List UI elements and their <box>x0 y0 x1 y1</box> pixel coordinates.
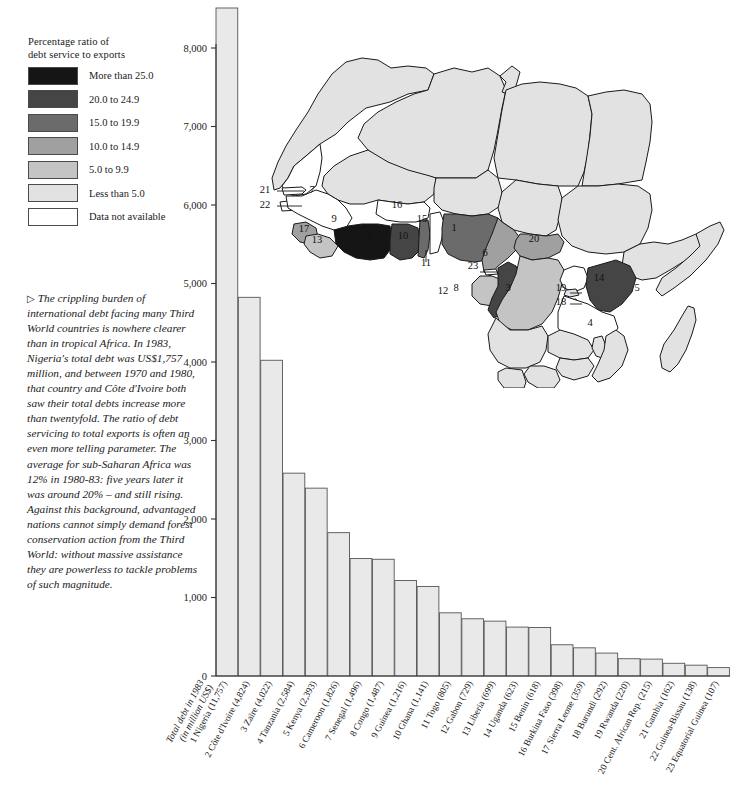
map-country-number: 4 <box>587 317 593 328</box>
y-axis-title-group: Total debt in 1983(in million US$) <box>163 678 216 750</box>
chart-bar <box>529 627 551 676</box>
x-tick-label: 16 Burkina Faso (398) <box>516 679 565 758</box>
map-country-number: 22 <box>260 199 271 210</box>
legend-item-label: 10.0 to 14.9 <box>89 141 139 152</box>
chart-bar <box>372 559 394 676</box>
x-tick-label: 9 Guinea (1,216) <box>369 679 408 740</box>
legend-swatch <box>28 90 78 108</box>
legend-swatch <box>28 161 78 179</box>
legend-item: 20.0 to 24.9 <box>28 90 203 108</box>
x-tick-label: 10 Ghana (1,141) <box>391 679 431 742</box>
map-country-number: 1 <box>451 222 456 233</box>
chart-bar <box>685 665 707 676</box>
x-tick-label: 2 Côte d'Ivoire (4,824) <box>203 679 253 759</box>
chart-bar <box>305 488 327 676</box>
map-legend: Percentage ratio of debt service to expo… <box>28 36 203 226</box>
africa-map: 1234567891011121314151617181920212223 <box>258 38 737 388</box>
map-country-number: 5 <box>634 282 639 293</box>
chart-bar <box>663 663 685 676</box>
legend-swatch <box>28 114 78 132</box>
chart-bar <box>462 619 484 676</box>
map-country-number: 20 <box>529 233 540 244</box>
x-tick-label: 14 Uganda (623) <box>481 679 520 740</box>
chart-bar <box>551 645 573 676</box>
x-tick-label: 4 Tanzania (2,584) <box>254 679 296 746</box>
map-country-number: 7 <box>309 184 314 195</box>
chart-bar <box>328 533 350 676</box>
chart-bar <box>641 659 663 676</box>
caption-text: ▷ The crippling burden of international … <box>27 291 203 592</box>
legend-item-label: Less than 5.0 <box>89 188 145 199</box>
country-cote-divoire <box>334 224 392 260</box>
legend-item-label: 20.0 to 24.9 <box>89 94 139 105</box>
x-tick-label: 23 Equatorial Guinea (107) <box>664 679 722 774</box>
legend-item-label: More than 25.0 <box>89 70 153 81</box>
country-kenya <box>586 260 636 312</box>
map-country-number: 6 <box>482 247 487 258</box>
legend-item: Less than 5.0 <box>28 184 203 202</box>
map-country-number: 23 <box>468 260 479 271</box>
x-tick-label: 5 Kenya (2,393) <box>281 679 319 738</box>
chart-bar <box>395 581 417 676</box>
atlas-page: Percentage ratio of debt service to expo… <box>0 0 737 808</box>
y-tick-label: 1,000 <box>183 592 207 603</box>
legend-rows: More than 25.020.0 to 24.915.0 to 19.910… <box>28 67 203 226</box>
chart-bar <box>484 621 506 676</box>
map-country-number: 13 <box>312 234 323 245</box>
map-country-number: 16 <box>392 199 403 210</box>
legend-title-line2: debt service to exports <box>28 49 203 62</box>
legend-swatch <box>28 137 78 155</box>
legend-swatch <box>28 184 78 202</box>
map-country-number: 14 <box>594 272 605 283</box>
y-axis-title-line: (in million US$) <box>176 683 216 744</box>
chart-bar <box>350 559 372 676</box>
legend-swatch <box>28 208 78 226</box>
caption-marker-icon: ▷ <box>27 293 35 304</box>
chart-bar <box>574 648 596 676</box>
country-libya <box>494 82 592 186</box>
x-tick-label: 18 Burundi (292) <box>570 679 610 741</box>
chart-bar <box>439 613 461 676</box>
chart-bar <box>708 668 730 676</box>
legend-item: 5.0 to 9.9 <box>28 161 203 179</box>
caption-body: The crippling burden of international de… <box>27 292 197 590</box>
x-tick-label: 15 Benin (618) <box>507 679 543 734</box>
x-tick-label: 20 Cent. African Rep. (215) <box>596 679 654 776</box>
legend-item: 10.0 to 14.9 <box>28 137 203 155</box>
x-tick-label: 19 Rwanda (220) <box>592 679 632 741</box>
map-country-number: 21 <box>260 184 271 195</box>
country-botswana <box>524 366 560 388</box>
legend-swatch <box>28 67 78 85</box>
country-egypt <box>582 90 652 186</box>
map-country-number: 17 <box>299 223 310 234</box>
x-tick-labels: 1 Nigeria (11,757)2 Côte d'Ivoire (4,824… <box>188 679 722 776</box>
legend-item: 15.0 to 19.9 <box>28 114 203 132</box>
legend-item-label: 15.0 to 19.9 <box>89 117 139 128</box>
x-tick-label: 3 Zaïre (4,022) <box>239 679 275 734</box>
x-tick-label: 6 Cameroon (1,826) <box>297 679 342 751</box>
map-country-number: 19 <box>556 282 567 293</box>
map-country-number: 9 <box>331 213 336 224</box>
map-country-number: 8 <box>453 282 458 293</box>
country-namibia <box>498 368 526 388</box>
chart-bar <box>238 297 260 676</box>
country-togo <box>418 220 430 258</box>
x-tick-label: 12 Gabon (729) <box>438 679 475 736</box>
map-country-number: 15 <box>417 213 428 224</box>
chart-bar <box>261 360 283 676</box>
x-tick-label: 17 Sierra Leone (359) <box>539 679 587 756</box>
legend-item-label: 5.0 to 9.9 <box>89 164 129 175</box>
y-tick-label: 0 <box>202 671 207 682</box>
country-madagascar <box>660 306 696 372</box>
legend-item: Data not available <box>28 208 203 226</box>
legend-item: More than 25.0 <box>28 67 203 85</box>
country-zimbabwe <box>556 358 594 380</box>
x-tick-label: 1 Nigeria (11,757) <box>188 679 230 745</box>
chart-bar <box>596 653 618 676</box>
y-axis-title: Total debt in 1983(in million US$) <box>163 678 216 750</box>
chart-bar <box>283 473 305 676</box>
chart-bar <box>417 586 439 676</box>
legend-title: Percentage ratio of debt service to expo… <box>28 36 203 61</box>
map-country-number: 18 <box>556 296 567 307</box>
map-country-number: 2 <box>367 231 372 242</box>
